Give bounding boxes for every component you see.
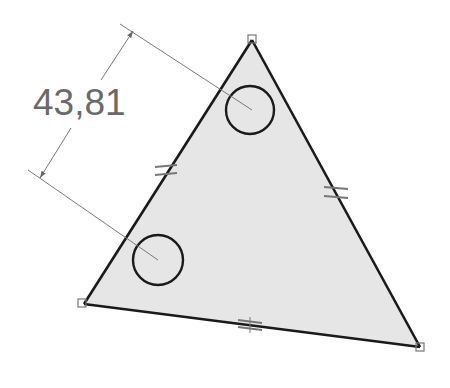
dimension-line-upper: [101, 31, 133, 80]
sketch-canvas[interactable]: [0, 0, 450, 388]
extension-line-lower: [28, 170, 158, 260]
extension-line-upper: [120, 24, 252, 110]
dimension-value-label[interactable]: 43,81: [33, 84, 126, 121]
dimension-line-lower: [40, 128, 71, 178]
